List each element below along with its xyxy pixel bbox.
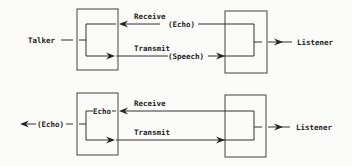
transmit-label: Transmit — [134, 44, 170, 53]
receive-label: Receive — [134, 99, 166, 108]
top-diagram: Talker Receive (Echo) Transmit (Speech) … — [28, 9, 334, 73]
talker-label: Talker — [28, 36, 56, 45]
transmit-label: Transmit — [134, 128, 170, 137]
echo-output-label: (Echo) — [37, 120, 64, 129]
listener-label: Listener — [296, 123, 333, 132]
transmit-signal-label: (Speech) — [168, 52, 204, 61]
echo-internal-label: Echo — [93, 107, 112, 116]
receive-signal-label: (Echo) — [168, 20, 195, 29]
bottom-diagram: (Echo) Echo Receive Transmit Listener — [20, 93, 333, 157]
right-hybrid-box — [225, 95, 266, 157]
receive-label: Receive — [134, 12, 166, 21]
listener-label: Listener — [297, 38, 334, 47]
echo-diagram: Talker Receive (Echo) Transmit (Speech) … — [0, 0, 352, 166]
